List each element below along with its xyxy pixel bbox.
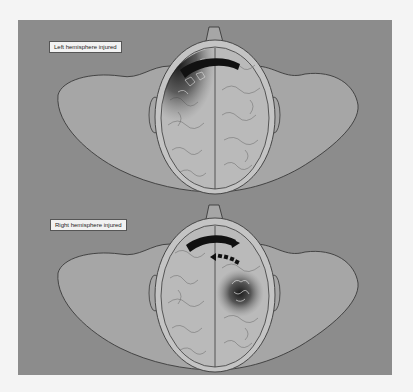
- figure-label: Right hemisphere injured: [50, 219, 127, 231]
- injury-region-right: [216, 269, 264, 317]
- figure-label: Left hemisphere injured: [49, 41, 122, 53]
- figure-left-hemisphere-injured: Left hemisphere injured: [0, 20, 413, 200]
- figure-right-hemisphere-injured: Right hemisphere injured: [0, 198, 413, 378]
